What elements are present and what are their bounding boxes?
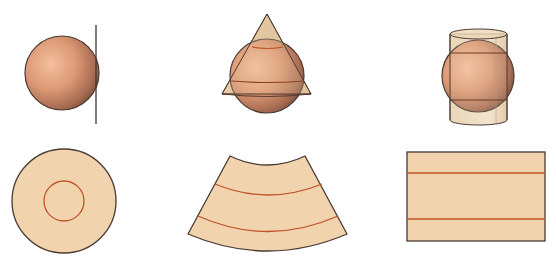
cylinder-front-overlay (450, 34, 507, 120)
cylindrical-projection-3d (442, 29, 514, 125)
azimuthal-projection-3d (25, 25, 99, 124)
azimuthal-projection-flat (12, 149, 116, 253)
projection-diagram (0, 0, 556, 264)
projection-rectangle (407, 152, 545, 241)
cylinder-top-rim (450, 29, 507, 39)
conic-projection-flat (188, 156, 347, 251)
projection-sector (188, 156, 347, 251)
globe-sphere (25, 36, 99, 110)
conic-projection-3d (222, 14, 311, 113)
projection-disc (12, 149, 116, 253)
cylindrical-projection-flat (407, 152, 545, 241)
